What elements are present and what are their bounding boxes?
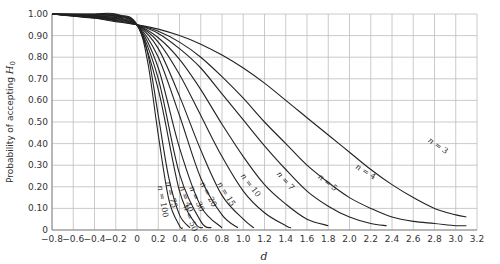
x-tick-label: −0.4: [84, 234, 106, 244]
x-tick-label: 1.8: [321, 234, 336, 244]
y-tick-label: 0.60: [28, 95, 48, 105]
x-tick-label: 2.8: [427, 234, 442, 244]
x-tick-label: 2.4: [385, 234, 400, 244]
y-tick-label: 0.20: [28, 182, 48, 192]
x-tick-label: 1.6: [300, 234, 315, 244]
x-tick-label: −0.6: [62, 234, 84, 244]
y-axis-label: Probability of accepting H0: [4, 61, 17, 183]
x-axis-label: d: [260, 250, 267, 263]
x-tick-label: 2.2: [364, 234, 378, 244]
x-axis-tick-labels: −0.8−0.6−0.4−0.200.20.40.60.81.01.21.41.…: [41, 234, 484, 244]
y-tick-label: 0.90: [28, 31, 48, 41]
curve-labels: n = 3n = 4n = 5n = 7n = 10n = 15n = 20n …: [156, 136, 450, 233]
curve-label: n = 10: [239, 172, 263, 199]
x-tick-label: 1.4: [279, 234, 294, 244]
x-tick-label: 3.2: [470, 234, 484, 244]
x-tick-label: 1.0: [236, 234, 251, 244]
x-tick-label: 0.4: [172, 234, 187, 244]
x-tick-label: −0.2: [105, 234, 127, 244]
y-tick-label: 0.30: [28, 160, 48, 170]
x-tick-label: 3.0: [449, 234, 464, 244]
y-tick-label: 0.10: [28, 203, 48, 213]
x-tick-label: 1.2: [257, 234, 271, 244]
x-tick-label: 0.8: [215, 234, 230, 244]
y-axis-tick-labels: 00.100.200.300.400.500.600.700.800.901.0…: [28, 9, 48, 235]
oc-curves: [52, 13, 466, 228]
y-tick-label: 0.50: [28, 117, 48, 127]
y-tick-label: 0.80: [28, 52, 48, 62]
oc-curve-chart: −0.8−0.6−0.4−0.200.20.40.60.81.01.21.41.…: [0, 0, 500, 264]
x-tick-label: 2.0: [342, 234, 357, 244]
y-tick-label: 0: [42, 225, 48, 235]
x-tick-label: 0.2: [151, 234, 165, 244]
y-tick-label: 0.40: [28, 139, 48, 149]
x-tick-label: 2.6: [406, 234, 421, 244]
y-tick-label: 1.00: [28, 9, 48, 19]
x-tick-label: −0.8: [41, 234, 63, 244]
x-tick-label: 0: [134, 234, 140, 244]
curve-label: n = 5: [316, 172, 339, 193]
x-tick-label: 0.6: [194, 234, 209, 244]
curve-label: n = 3: [426, 136, 449, 156]
y-tick-label: 0.70: [28, 74, 48, 84]
